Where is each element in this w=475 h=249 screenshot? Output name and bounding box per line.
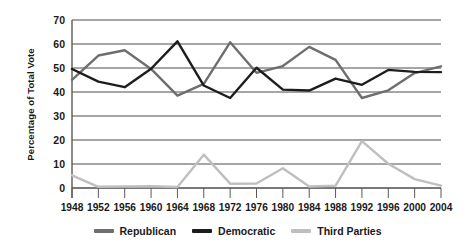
- x-tick-1984: 1984: [298, 202, 321, 213]
- x-tick-1968: 1968: [192, 202, 215, 213]
- x-axis-tick-marks: [72, 188, 441, 198]
- legend-swatch-democratic: [192, 229, 212, 233]
- x-tick-1980: 1980: [272, 202, 295, 213]
- y-axis-tick-labels: 010203040506070: [53, 14, 65, 194]
- x-tick-1992: 1992: [351, 202, 374, 213]
- series-line-democratic: [72, 41, 441, 98]
- x-tick-2004: 2004: [430, 202, 453, 213]
- legend-item-third-parties[interactable]: Third Parties: [291, 225, 381, 237]
- legend-label-democratic: Democratic: [218, 225, 275, 237]
- legend-label-third-parties: Third Parties: [317, 225, 381, 237]
- y-tick-20: 20: [53, 134, 65, 146]
- x-tick-1976: 1976: [245, 202, 268, 213]
- x-tick-1956: 1956: [113, 202, 136, 213]
- gridlines: [72, 20, 441, 198]
- y-tick-40: 40: [53, 86, 65, 98]
- legend-item-democratic[interactable]: Democratic: [192, 225, 275, 237]
- legend-label-republican: Republican: [120, 225, 177, 237]
- x-tick-1960: 1960: [140, 202, 163, 213]
- x-tick-1952: 1952: [87, 202, 110, 213]
- x-tick-1964: 1964: [166, 202, 189, 213]
- x-tick-1972: 1972: [219, 202, 242, 213]
- x-tick-2000: 2000: [403, 202, 426, 213]
- x-tick-1948: 1948: [61, 202, 84, 213]
- plot-area: 010203040506070 194819521956196019641968…: [0, 0, 475, 249]
- y-tick-30: 30: [53, 110, 65, 122]
- x-tick-1988: 1988: [324, 202, 347, 213]
- y-tick-60: 60: [53, 38, 65, 50]
- x-axis-tick-labels: 1948195219561960196419681972197619801984…: [61, 202, 453, 213]
- data-series-lines: [72, 41, 441, 187]
- legend-item-republican[interactable]: Republican: [94, 225, 177, 237]
- y-tick-0: 0: [59, 182, 65, 194]
- y-tick-50: 50: [53, 62, 65, 74]
- y-tick-10: 10: [53, 158, 65, 170]
- x-tick-1996: 1996: [377, 202, 400, 213]
- legend-swatch-third-parties: [291, 229, 311, 233]
- legend-swatch-republican: [94, 229, 114, 233]
- election-vote-share-chart: Percentage of Total Vote 010203040506070…: [0, 0, 475, 249]
- chart-legend: Republican Democratic Third Parties: [0, 225, 475, 237]
- y-tick-70: 70: [53, 14, 65, 26]
